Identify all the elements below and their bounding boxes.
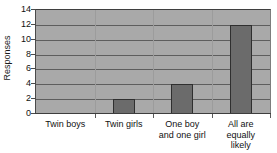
x-axis-tickmark: [270, 114, 271, 118]
plot-area: [36, 9, 271, 114]
x-axis-tick-labels: Twin boysTwin girlsOne boy and one girlA…: [36, 119, 270, 153]
y-axis-tickmark: [31, 9, 35, 10]
y-axis-title: Responses: [0, 0, 14, 115]
y-axis-title-label: Responses: [2, 35, 12, 80]
bar[interactable]: [230, 25, 252, 114]
y-axis-tickmark: [31, 98, 35, 99]
y-axis-tickmark: [31, 54, 35, 55]
bar-chart: Responses 02468101214 Twin boysTwin girl…: [0, 0, 277, 153]
bar[interactable]: [171, 84, 193, 114]
y-axis-tick-label: 12: [21, 19, 31, 28]
x-axis-tickmark: [153, 114, 154, 118]
x-axis-tick-label: Twin girls: [95, 119, 154, 130]
y-axis-tickmark: [31, 24, 35, 25]
category-separator: [212, 10, 213, 114]
y-axis-tick-label: 10: [21, 34, 31, 43]
x-axis-tickmark: [212, 114, 213, 118]
x-axis-tick-label: One boy and one girl: [153, 119, 212, 140]
x-axis-tickmark: [95, 114, 96, 118]
bar[interactable]: [113, 99, 135, 114]
category-separator: [153, 10, 154, 114]
category-separator: [95, 10, 96, 114]
y-axis-tickmark: [31, 39, 35, 40]
y-axis-tickmark: [31, 83, 35, 84]
x-axis-tick-label: Twin boys: [36, 119, 95, 130]
y-axis-tickmark: [31, 68, 35, 69]
x-axis-tick-label: All are equally likely: [212, 119, 271, 151]
y-axis-tickmark: [31, 113, 35, 114]
y-axis-tick-label: 14: [21, 5, 31, 14]
